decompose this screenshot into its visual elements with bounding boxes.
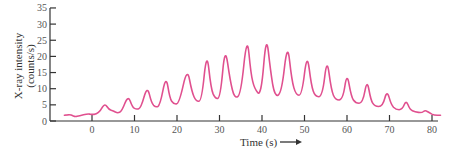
x-tick-label: 60 <box>342 124 352 135</box>
y-tick-label: 15 <box>37 67 47 78</box>
x-axis: 01020304050607080 <box>50 115 438 135</box>
xray-intensity-chart: 05101520253035 01020304050607080 X-ray i… <box>0 0 454 151</box>
y-tick-label: 5 <box>42 99 47 110</box>
intensity-line <box>64 45 440 117</box>
y-tick-label: 30 <box>37 19 47 30</box>
y-tick-label: 10 <box>37 83 47 94</box>
x-tick-label: 30 <box>215 124 225 135</box>
y-tick-label: 20 <box>37 51 47 62</box>
x-tick-label: 10 <box>130 124 140 135</box>
x-tick-label: 50 <box>300 124 310 135</box>
x-axis-label: Time (s) <box>240 136 278 149</box>
arrow-right-icon <box>280 139 302 145</box>
y-tick-label: 35 <box>37 2 47 13</box>
y-tick-label: 25 <box>37 35 47 46</box>
y-axis: 05101520253035 <box>37 2 56 126</box>
x-tick-label: 20 <box>172 124 182 135</box>
y-axis-unit-label: (counts/s) <box>24 44 37 88</box>
x-tick-label: 70 <box>385 124 395 135</box>
x-tick-label: 0 <box>90 124 95 135</box>
x-tick-label: 80 <box>427 124 437 135</box>
y-axis-label: X-ray intensity <box>12 32 24 99</box>
y-tick-label: 0 <box>42 116 47 127</box>
x-tick-label: 40 <box>257 124 267 135</box>
y-axis-title: X-ray intensity <box>12 32 24 99</box>
y-axis-unit: (counts/s) <box>24 44 37 88</box>
